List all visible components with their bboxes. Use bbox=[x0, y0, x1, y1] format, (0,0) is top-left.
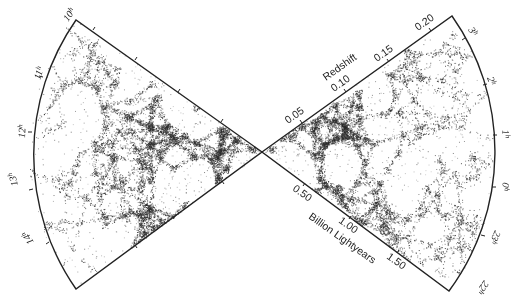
distance-tick-050: 0.50 bbox=[291, 182, 315, 204]
hour-label-11: 11h bbox=[31, 65, 46, 81]
distance-tick-150: 1.50 bbox=[385, 250, 409, 272]
distance-axis: 0.50 1.00 Billion Lightyears 1.50 bbox=[291, 182, 409, 272]
hour-label-12: 12h bbox=[16, 124, 27, 138]
hour-label-2: 2h bbox=[485, 75, 498, 87]
diagram-frame: Redshift 0.05 0.10 0.15 0.20 0.50 1.00 B… bbox=[0, 0, 525, 304]
right-hour-labels: 3h 2h 1h 0h 23h 22h bbox=[466, 24, 512, 297]
redshift-tick-015: 0.15 bbox=[371, 42, 395, 64]
hour-label-14: 14h bbox=[19, 229, 36, 247]
hour-label-13: 13h bbox=[6, 171, 20, 187]
left-hour-labels: 10h 11h 12h 13h 14h bbox=[6, 5, 78, 246]
hour-label-0: 0h bbox=[499, 182, 511, 193]
left-edge-ticks bbox=[93, 27, 224, 248]
redshift-axis: Redshift 0.05 0.10 0.15 0.20 bbox=[282, 11, 436, 126]
hour-ticks bbox=[28, 38, 497, 244]
hour-label-3: 3h bbox=[466, 24, 481, 39]
cone-diagram: Redshift 0.05 0.10 0.15 0.20 0.50 1.00 B… bbox=[0, 0, 525, 304]
hour-label-22: 22h bbox=[474, 279, 491, 297]
redshift-ticks bbox=[300, 28, 431, 123]
hour-label-1: 1h bbox=[500, 129, 512, 139]
left-wedge-outline bbox=[34, 20, 262, 289]
hour-label-23: 23h bbox=[487, 229, 503, 246]
